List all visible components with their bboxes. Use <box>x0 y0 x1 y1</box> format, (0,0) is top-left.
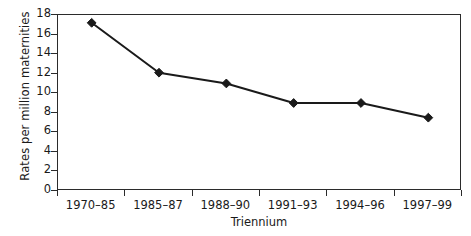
x-axis-tick-mark <box>326 190 327 196</box>
y-axis-tick-label: 0 <box>29 184 51 195</box>
line-chart-figure: Rates per million maternities 0246810121… <box>0 0 471 236</box>
y-axis-tick-label: 4 <box>29 145 51 156</box>
y-axis-tick-label: 14 <box>29 47 51 58</box>
y-axis-tick-label: 8 <box>29 106 51 117</box>
data-point-marker <box>357 99 366 108</box>
y-axis-tick-label: 2 <box>29 164 51 175</box>
x-axis-tick-label: 1997–99 <box>387 199 467 212</box>
y-axis-tick-label: 16 <box>29 28 51 39</box>
x-axis-tick-mark <box>394 190 395 196</box>
x-axis-tick-mark <box>192 190 193 196</box>
y-axis-tick-labels: 024681012141618 <box>25 0 51 236</box>
series-line <box>92 23 429 118</box>
x-axis-title: Triennium <box>57 215 461 229</box>
y-axis-tick-label: 12 <box>29 67 51 78</box>
y-axis-tick-label: 6 <box>29 125 51 136</box>
data-point-marker <box>289 99 298 108</box>
y-axis-tick-label: 18 <box>29 8 51 19</box>
x-axis-tick-mark <box>259 190 260 196</box>
plot-area <box>57 14 461 190</box>
data-line-series <box>58 15 462 191</box>
y-axis-tick-label: 10 <box>29 86 51 97</box>
x-axis-tick-mark <box>124 190 125 196</box>
data-point-marker <box>222 79 231 88</box>
x-axis-tick-mark <box>57 190 58 196</box>
x-axis-tick-mark <box>461 190 462 196</box>
data-point-marker <box>424 113 433 122</box>
